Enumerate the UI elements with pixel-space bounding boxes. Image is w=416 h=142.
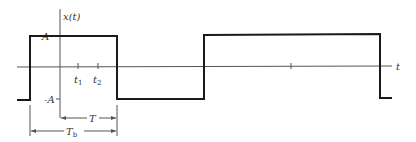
bit-period-arrowhead-left [31, 129, 36, 133]
time-axis-label: t [396, 61, 401, 72]
period-arrowhead-right [111, 116, 116, 120]
t2-label: t2 [93, 74, 102, 87]
period-label: T [89, 113, 97, 124]
period-arrowhead-left [61, 116, 66, 120]
bit-period-arrowhead-right [111, 129, 116, 133]
amplitude-axis-label: x(t) [63, 11, 81, 22]
waveform-diagram: t x(t) A -A t1 t2 T Tb [0, 0, 416, 142]
bit-period-label: Tb [66, 126, 78, 139]
amplitude-negative-label: -A [44, 94, 55, 105]
t1-label: t1 [74, 74, 83, 87]
